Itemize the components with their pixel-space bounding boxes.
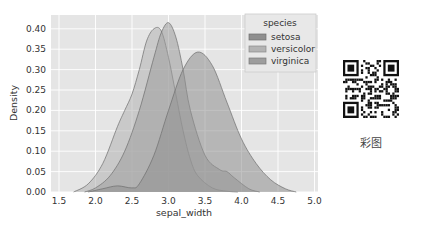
legend-label-versicolor: versicolor (271, 44, 315, 54)
y-tick-label: 0.10 (26, 146, 46, 156)
x-axis-ticks: 1.52.02.53.03.54.04.55.0 (52, 196, 322, 206)
y-axis-label: Density (8, 85, 19, 121)
legend-label-virginica: virginica (271, 56, 309, 66)
y-tick-label: 0.20 (26, 105, 46, 115)
x-axis-label: sepal_width (156, 207, 212, 218)
x-tick-label: 4.5 (271, 196, 285, 206)
x-tick-label: 1.5 (52, 196, 66, 206)
legend: species setosa versicolor virginica (245, 14, 316, 72)
y-axis-ticks: 0.000.050.100.150.200.250.300.350.40 (26, 24, 46, 197)
legend-swatch-setosa (249, 34, 266, 40)
x-tick-label: 3.0 (161, 196, 176, 206)
y-tick-label: 0.40 (26, 24, 46, 34)
kde-chart: 0.000.050.100.150.200.250.300.350.40 1.5… (0, 0, 330, 232)
y-tick-label: 0.35 (26, 44, 46, 54)
x-tick-label: 3.5 (198, 196, 212, 206)
y-tick-label: 0.30 (26, 65, 46, 75)
x-tick-label: 5.0 (307, 196, 322, 206)
x-tick-label: 4.0 (234, 196, 249, 206)
legend-swatch-versicolor (249, 46, 266, 52)
x-tick-label: 2.5 (125, 196, 139, 206)
legend-title: species (263, 18, 297, 28)
qr-code-icon (343, 60, 399, 118)
qr-caption: 彩图 (343, 134, 399, 150)
y-tick-label: 0.25 (26, 85, 46, 95)
y-tick-label: 0.05 (26, 167, 46, 177)
y-tick-label: 0.15 (26, 126, 46, 136)
legend-swatch-virginica (249, 58, 266, 64)
legend-label-setosa: setosa (271, 32, 300, 42)
y-tick-label: 0.00 (26, 187, 46, 197)
qr-code (343, 60, 399, 118)
x-tick-label: 2.0 (88, 196, 103, 206)
